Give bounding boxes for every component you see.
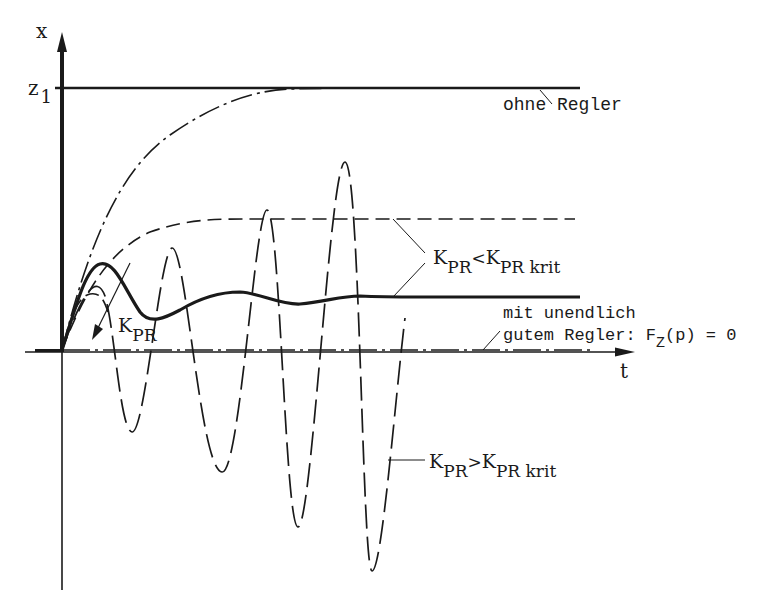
ideal-label-line1: mit unendlich — [503, 304, 636, 323]
z1-label: z1 — [28, 76, 52, 107]
kpr-greater-label: KPR>KPR krit — [429, 450, 556, 481]
ohne-regler-label: ohne Regler — [503, 95, 622, 115]
t-axis-arrow-icon — [615, 348, 635, 357]
y-axis — [57, 32, 67, 590]
y-axis-label: x — [36, 19, 48, 43]
t-axis — [25, 348, 635, 357]
kpr-less-leader-bottom — [393, 263, 425, 297]
kpr-less-leader-top — [393, 219, 425, 253]
ideal-label-line2: gutem Regler: FZ(p) = 0 — [503, 326, 736, 352]
ideal-leader — [483, 331, 500, 350]
kpr-greater-unstable-curve — [62, 162, 405, 571]
control-response-diagram: x t z1 ohne Regler KPR<KPR krit mit unen… — [0, 0, 767, 611]
kpr-arrow-head-icon — [92, 324, 103, 340]
kpr-less-label: KPR<KPR krit — [433, 246, 560, 277]
y-axis-arrow-icon — [57, 32, 67, 52]
t-axis-label: t — [620, 359, 628, 383]
